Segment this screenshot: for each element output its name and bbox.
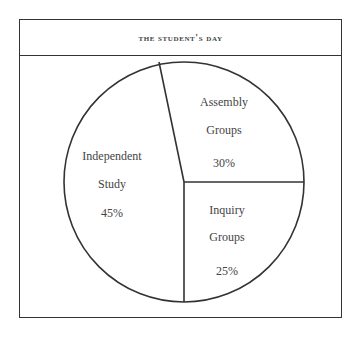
slice-label: Assembly xyxy=(169,96,279,108)
slice-label: Groups xyxy=(169,124,279,136)
slice-label: Inquiry xyxy=(172,204,282,216)
slice-value: 25% xyxy=(172,265,282,277)
slice-value: 30% xyxy=(169,157,279,169)
slice-value: 45% xyxy=(57,207,167,219)
slice-label: Study xyxy=(57,178,167,190)
slice-label: Groups xyxy=(172,231,282,243)
pie-chart xyxy=(0,0,363,341)
slice-label: Independent xyxy=(57,150,167,162)
